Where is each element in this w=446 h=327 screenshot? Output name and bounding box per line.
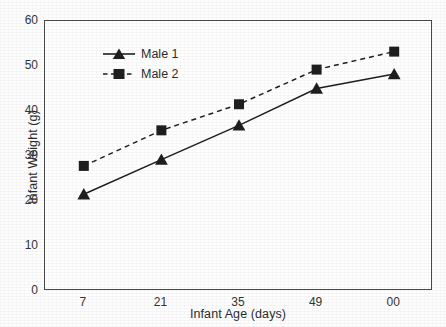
chart-figure: Infant Weight (g) Infant Age (days) 0102… xyxy=(0,0,446,327)
x-axis-tick-label: 35 xyxy=(218,295,258,309)
legend-item-male-1: Male 1 xyxy=(102,46,179,61)
data-point-marker-square xyxy=(312,65,322,75)
x-axis-tick-label: 00 xyxy=(373,295,413,309)
data-point-marker-triangle xyxy=(233,119,246,130)
x-axis-tick-label: 7 xyxy=(63,295,103,309)
x-axis-tick-label: 21 xyxy=(140,295,180,309)
data-point-marker-square xyxy=(389,47,399,57)
legend-key-square-dashed-icon xyxy=(102,67,136,81)
y-axis-tick-label: 60 xyxy=(4,13,38,27)
legend-label-male-1: Male 1 xyxy=(141,47,179,61)
plot-area: Male 1 Male 2 xyxy=(44,20,432,290)
chart-legend: Male 1 Male 2 xyxy=(102,46,179,81)
y-axis-tick-label: 50 xyxy=(4,58,38,72)
data-point-marker-square xyxy=(79,161,89,171)
y-axis-tick-label: 30 xyxy=(4,148,38,162)
series-1 xyxy=(77,68,400,200)
y-axis-tick-label: 40 xyxy=(4,103,38,117)
data-point-marker-square xyxy=(156,125,166,135)
legend-label-male-2: Male 2 xyxy=(141,67,179,81)
series-line xyxy=(84,74,394,194)
data-point-marker-square xyxy=(234,99,244,109)
x-axis-tick-label: 49 xyxy=(296,295,336,309)
y-axis-tick-label: 20 xyxy=(4,193,38,207)
legend-key-triangle-solid-icon xyxy=(102,47,136,61)
data-point-marker-triangle xyxy=(155,153,168,164)
y-axis-tick-label: 0 xyxy=(4,283,38,297)
data-point-marker-triangle xyxy=(388,68,401,79)
data-point-marker-triangle xyxy=(77,188,90,199)
x-axis-title: Infant Age (days) xyxy=(44,307,432,321)
y-axis-tick-label: 10 xyxy=(4,238,38,252)
legend-item-male-2: Male 2 xyxy=(102,66,179,81)
